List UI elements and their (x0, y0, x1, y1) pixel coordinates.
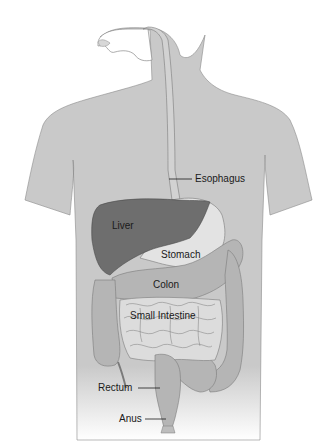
label-rectum: Rectum (98, 383, 132, 393)
label-small-intestine: Small Intestine (130, 311, 196, 321)
label-colon: Colon (153, 280, 179, 290)
label-liver: Liver (112, 221, 134, 231)
digestive-system-diagram (0, 0, 334, 447)
label-anus: Anus (119, 414, 142, 424)
anus (161, 426, 175, 433)
label-esophagus: Esophagus (195, 174, 245, 184)
label-stomach: Stomach (161, 250, 200, 260)
